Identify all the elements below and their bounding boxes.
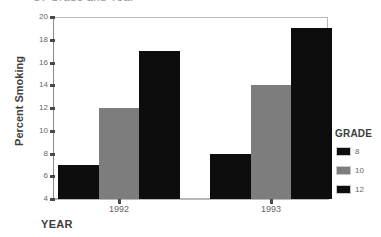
legend-item-grade-10: 10 bbox=[336, 165, 381, 176]
bar-1992-grade-8 bbox=[58, 165, 99, 199]
y-axis-title: Percent Smoking bbox=[13, 36, 25, 166]
y-tick-label: 4 bbox=[2, 195, 48, 203]
x-axis-line bbox=[53, 199, 329, 200]
chart-title-fragment: by Grade and Year bbox=[34, 0, 134, 1]
legend-item-grade-12: 12 bbox=[336, 184, 381, 195]
legend-label: 12 bbox=[355, 185, 364, 194]
y-tick-label: 16 bbox=[2, 59, 48, 67]
y-tick-label: 14 bbox=[2, 81, 48, 89]
bars-layer bbox=[54, 17, 328, 199]
legend-swatch-icon bbox=[336, 185, 351, 194]
y-tick-label: 20 bbox=[2, 13, 48, 21]
legend-swatch-icon bbox=[336, 147, 351, 156]
legend-item-grade-8: 8 bbox=[336, 146, 381, 157]
y-tick-label: 8 bbox=[2, 150, 48, 158]
legend-title: GRADE bbox=[335, 128, 381, 139]
x-tick-label-1992: 1992 bbox=[89, 204, 149, 214]
bar-1993-grade-10 bbox=[251, 85, 292, 199]
legend-label: 10 bbox=[355, 166, 364, 175]
legend: GRADE 81012 bbox=[336, 128, 381, 203]
y-tick-label: 6 bbox=[2, 172, 48, 180]
bar-1992-grade-12 bbox=[139, 51, 180, 199]
x-tick-label-1993: 1993 bbox=[241, 204, 301, 214]
bar-1993-grade-12 bbox=[291, 28, 332, 199]
bar-1992-grade-10 bbox=[99, 108, 140, 199]
bar-1993-grade-8 bbox=[210, 154, 251, 200]
legend-swatch-icon bbox=[336, 166, 351, 175]
y-tick-label: 18 bbox=[2, 36, 48, 44]
y-tick-label: 10 bbox=[2, 127, 48, 135]
legend-label: 8 bbox=[355, 147, 359, 156]
y-tick-label: 12 bbox=[2, 104, 48, 112]
x-axis-title: YEAR bbox=[41, 218, 73, 230]
chart-figure: by Grade and Year 201816141210864 Percen… bbox=[0, 0, 381, 237]
legend-entries: 81012 bbox=[336, 146, 381, 195]
